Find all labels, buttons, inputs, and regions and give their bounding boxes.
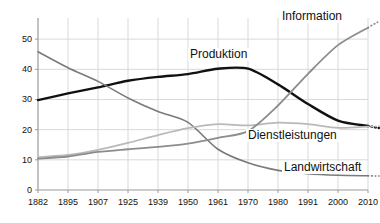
svg-text:1907: 1907 [88, 197, 108, 207]
svg-text:2000: 2000 [328, 197, 348, 207]
svg-text:1950: 1950 [178, 197, 198, 207]
svg-text:0: 0 [27, 185, 32, 195]
y-axis-tick-labels: 01020304050 [22, 34, 38, 195]
chart-canvas: 01020304050 1882189519071925193919501961… [0, 0, 380, 223]
series-label-produktion: Produktion [188, 48, 249, 61]
svg-text:2010: 2010 [358, 197, 378, 207]
svg-text:1895: 1895 [58, 197, 78, 207]
svg-text:50: 50 [22, 34, 32, 44]
line-chart: 01020304050 1882189519071925193919501961… [0, 0, 380, 223]
svg-text:1882: 1882 [28, 197, 48, 207]
svg-text:40: 40 [22, 64, 32, 74]
x-axis-tick-labels: 1882189519071925193919501961197019801991… [28, 190, 378, 207]
svg-text:1939: 1939 [148, 197, 168, 207]
series-label-information: Information [280, 10, 344, 23]
svg-text:1970: 1970 [238, 197, 258, 207]
svg-text:1961: 1961 [208, 197, 228, 207]
series-label-landwirtschaft: Landwirtschaft [282, 161, 363, 174]
series-dotted-tail-produktion [368, 126, 379, 128]
svg-text:1980: 1980 [268, 197, 288, 207]
svg-text:1991: 1991 [298, 197, 318, 207]
svg-text:20: 20 [22, 125, 32, 135]
svg-text:30: 30 [22, 94, 32, 104]
series-label-dienstleistungen: Dienstleistungen [246, 129, 339, 142]
series-dotted-tail-information [368, 22, 378, 28]
svg-text:1925: 1925 [118, 197, 138, 207]
svg-text:10: 10 [22, 155, 32, 165]
